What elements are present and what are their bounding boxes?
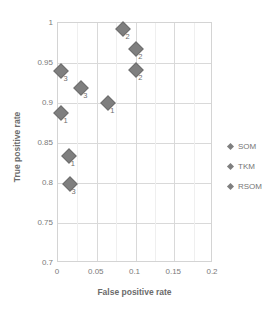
legend-label: SOM [238, 142, 256, 151]
data-point-label: 1 [71, 160, 75, 168]
gridline-vertical-minor [77, 23, 78, 261]
y-axis-tick-label: 1 [49, 18, 53, 27]
data-point-label: 1 [63, 117, 67, 125]
gridline-vertical-minor [116, 23, 117, 261]
legend-marker-icon [227, 182, 234, 189]
gridline-horizontal [58, 223, 211, 224]
x-axis-tick-label: 0 [55, 267, 59, 276]
legend-label: TKM [238, 162, 255, 171]
x-axis-tick-label: 0.05 [88, 267, 104, 276]
gridline-horizontal [58, 103, 211, 104]
y-axis-title: True positive rate [12, 82, 22, 212]
chart-legend: SOMTKMRSOM [228, 136, 280, 196]
y-axis-tick-label: 0.95 [37, 58, 53, 67]
gridline-vertical [97, 23, 98, 261]
data-point-label: 1 [110, 107, 114, 115]
gridline-vertical [174, 23, 175, 261]
y-axis-tick-label: 0.9 [42, 98, 53, 107]
gridline-vertical-minor [194, 23, 195, 261]
x-axis-tick-label: 0.15 [165, 267, 181, 276]
data-point-label: 2 [125, 33, 129, 41]
legend-marker-icon [227, 162, 234, 169]
y-axis-tick-label: 0.8 [42, 178, 53, 187]
legend-label: RSOM [238, 182, 262, 191]
legend-item-som[interactable]: SOM [228, 136, 280, 156]
data-point-label: 2 [138, 53, 142, 61]
x-axis-tick-label: 0.2 [206, 267, 217, 276]
y-axis-tick-label: 0.7 [42, 258, 53, 267]
data-point-label: 3 [72, 188, 76, 196]
plot-area: 123123123 [57, 22, 212, 262]
x-axis-tick-labels: 00.050.10.150.2 [0, 267, 280, 281]
data-point-label: 2 [138, 74, 142, 82]
legend-marker-icon [227, 142, 234, 149]
y-axis-tick-label: 0.85 [37, 138, 53, 147]
y-axis-tick-label: 0.75 [37, 218, 53, 227]
legend-item-rsom[interactable]: RSOM [228, 176, 280, 196]
x-axis-title: False positive rate [57, 287, 212, 297]
gridline-vertical-minor [155, 23, 156, 261]
x-axis-tick-label: 0.1 [129, 267, 140, 276]
legend-item-tkm[interactable]: TKM [228, 156, 280, 176]
data-point-label: 3 [63, 75, 67, 83]
gridline-horizontal [58, 143, 211, 144]
gridline-horizontal [58, 183, 211, 184]
data-point-label: 3 [83, 92, 87, 100]
scatter-chart: 0.70.750.80.850.90.951 123123123 00.050.… [0, 0, 280, 313]
gridline-vertical [136, 23, 137, 261]
